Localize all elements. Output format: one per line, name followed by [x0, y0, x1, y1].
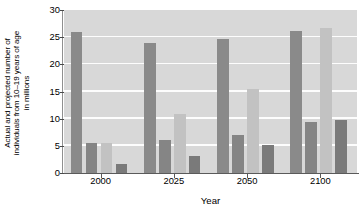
bar-2100-series-3 [335, 120, 347, 173]
bar-2000-series-1 [71, 32, 83, 173]
bar-2025-series-3 [189, 156, 201, 173]
y-tick-label-25: 25 [40, 32, 60, 41]
x-tick-mark-2100 [320, 174, 321, 178]
y-axis-tick-labels: 051015202530 [34, 0, 60, 186]
y-tick-mark-5 [60, 146, 64, 147]
y-tick-mark-25 [60, 37, 64, 38]
bar-2025-series-2 [174, 114, 186, 173]
x-tick-mark-2025 [174, 174, 175, 178]
gridline-15 [64, 90, 357, 91]
bar-2100-series-2 [320, 28, 332, 173]
gridline-25 [64, 36, 357, 37]
y-tick-label-5: 5 [40, 141, 60, 150]
y-tick-mark-0 [60, 173, 64, 174]
plot-area [64, 10, 357, 173]
y-tick-label-20: 20 [40, 60, 60, 69]
x-axis-label: Year [64, 195, 357, 206]
y-axis-label-line-2: individuals from 10–19 years of age [12, 31, 22, 155]
bar-2050-series-2 [247, 89, 259, 173]
bar-2000-series-3 [116, 164, 128, 173]
y-tick-mark-30 [60, 10, 64, 11]
y-axis-label-line-3: in millions [22, 31, 32, 155]
y-tick-label-10: 10 [40, 114, 60, 123]
y-tick-mark-15 [60, 92, 64, 93]
y-tick-mark-10 [60, 119, 64, 120]
bar-2100-series-mid [305, 122, 317, 173]
bar-chart-figure: Actual and projected number of individua… [0, 0, 361, 224]
bar-2050-series-1 [217, 39, 229, 173]
bar-2100-series-1 [290, 31, 302, 173]
y-tick-label-15: 15 [40, 87, 60, 96]
gridline-10 [64, 117, 357, 118]
y-tick-mark-20 [60, 64, 64, 65]
gridline-20 [64, 63, 357, 64]
y-tick-label-0: 0 [40, 168, 60, 177]
bar-2000-series-mid [86, 143, 98, 173]
y-axis-label-line-1: Actual and projected number of [3, 31, 13, 155]
bar-2050-series-3 [262, 145, 274, 173]
bar-2025-series-1 [144, 43, 156, 173]
x-tick-mark-2050 [247, 174, 248, 178]
x-tick-mark-2000 [101, 174, 102, 178]
y-tick-label-30: 30 [40, 5, 60, 14]
y-axis-label: Actual and projected number of individua… [0, 0, 34, 186]
bar-2000-series-2 [101, 143, 113, 173]
bar-2050-series-mid [232, 135, 244, 173]
bar-2025-series-mid [159, 140, 171, 173]
